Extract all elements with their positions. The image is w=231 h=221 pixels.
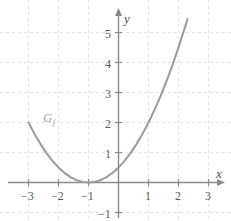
curve-annotation-subscript: f [52,117,55,127]
ytick-label--1: −1 [98,208,111,220]
x-axis [8,179,225,186]
ytick-label-5: 5 [105,28,111,40]
xtick-label-2: 2 [175,190,181,202]
xtick-label--2: −2 [51,190,64,202]
xtick-label-3: 3 [205,190,211,202]
ytick-label-3: 3 [105,88,111,100]
plot-canvas [0,0,231,221]
y-axis-arrow [115,8,122,16]
y-axis [115,8,122,218]
curve-annotation-base: G [43,110,52,125]
xtick-label--3: −3 [21,190,34,202]
xtick-label-1: 1 [145,190,151,202]
ytick-label-2: 2 [105,118,111,130]
xtick-label--1: −1 [81,190,94,202]
y-axis-label: y [124,12,130,25]
x-axis-label: x [216,167,222,180]
ytick-label-4: 4 [105,58,111,70]
ytick-label-1: 1 [105,148,111,160]
function-graph-figure: −3 −2 −1 1 2 3 5 4 3 2 1 −1 y x Gf [0,0,231,221]
curve-annotation-gf: Gf [43,111,55,127]
